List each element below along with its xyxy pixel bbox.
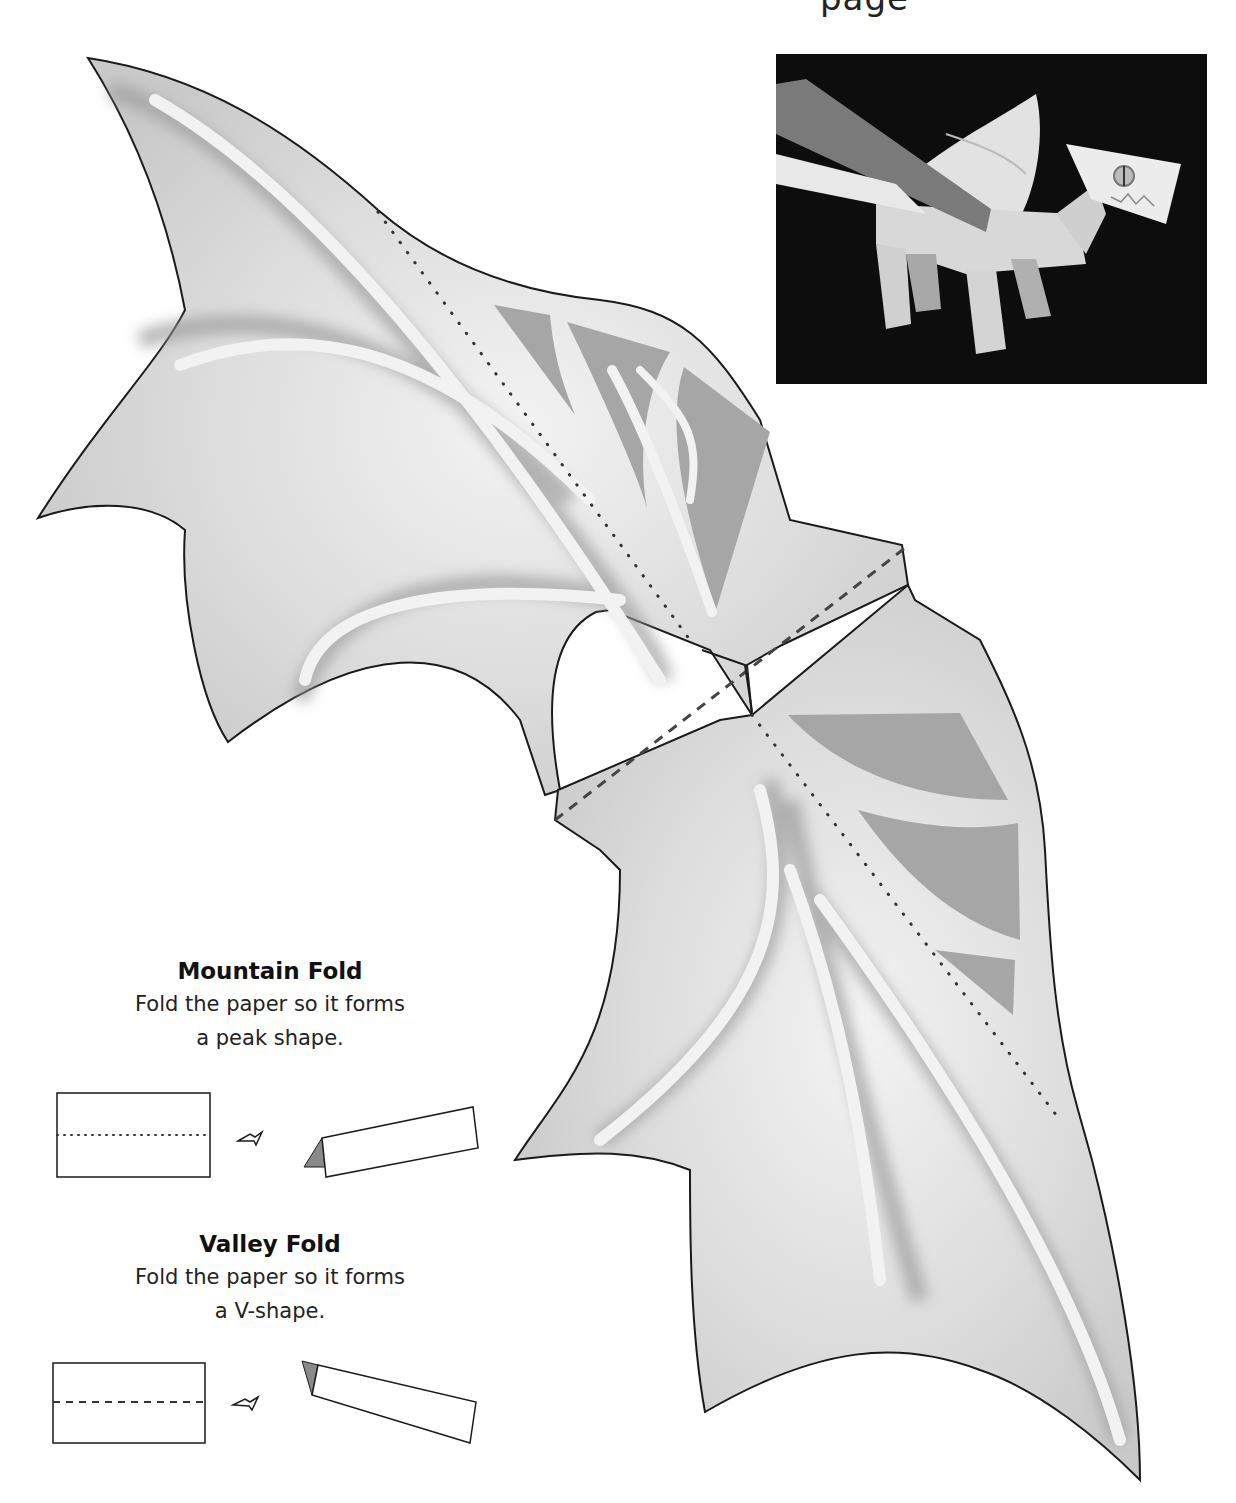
valley-fold-diagram: [50, 1355, 490, 1455]
mountain-fold-title: Mountain Fold: [50, 955, 490, 987]
valley-flat-paper: [53, 1363, 205, 1443]
valley-fold-desc-line1: Fold the paper so it forms: [50, 1260, 490, 1294]
mountain-fold-desc-line2: a peak shape.: [50, 1021, 490, 1055]
valley-fold-legend: Valley Fold Fold the paper so it forms a…: [50, 1228, 490, 1328]
dragon-photo-image: [776, 54, 1207, 384]
valley-fold-desc-line2: a V-shape.: [50, 1294, 490, 1328]
valley-fold-title: Valley Fold: [50, 1228, 490, 1260]
mountain-fold-desc-line1: Fold the paper so it forms: [50, 987, 490, 1021]
mountain-folded-paper: [322, 1107, 478, 1177]
valley-folded-paper: [312, 1365, 476, 1443]
mountain-fold-legend: Mountain Fold Fold the paper so it forms…: [50, 955, 490, 1055]
mountain-arrow-icon: [238, 1132, 262, 1145]
valley-arrow-icon: [233, 1397, 258, 1410]
mountain-fold-diagram: [50, 1085, 490, 1185]
finished-dragon-photo: [776, 54, 1207, 384]
